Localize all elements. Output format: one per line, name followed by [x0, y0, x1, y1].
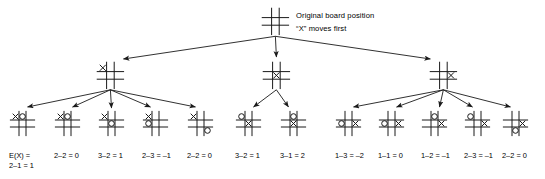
- edge-left-to-leaf-3: [110, 90, 111, 108]
- edge-right-to-leaf-8: [354, 90, 444, 107]
- leaf-1-eval-value: 2–1 = 1: [9, 161, 34, 171]
- edge-right-to-leaf-12: [443, 90, 510, 107]
- edge-left-to-leaf-5: [110, 90, 195, 107]
- edge-left-to-leaf-1: [28, 90, 111, 107]
- edge-right-to-leaf-9: [397, 90, 444, 107]
- edge-center-to-leaf-6: [254, 90, 277, 107]
- leaf-4-eval-value: 2–3 = –1: [142, 151, 171, 160]
- leaf-10-eval-value: 1–2 = –1: [421, 151, 450, 160]
- leaf-9-eval-value: 1–1 = 0: [378, 151, 403, 160]
- edge-root-to-center: [275, 36, 276, 57]
- edge-root-to-left: [123, 36, 275, 59]
- leaf-12-eval-value: 2–2 = 0: [502, 151, 527, 160]
- game-tree-diagram: Original board position “X” moves first …: [0, 0, 545, 179]
- root-annotation-line2: “X” moves first: [296, 24, 346, 34]
- edge-left-to-leaf-2: [73, 90, 111, 107]
- leaf-5-eval-value: 2–2 = 0: [187, 151, 212, 160]
- root-annotation-line1: Original board position: [296, 11, 374, 21]
- leaf-6-eval-value: 3–2 = 1: [235, 151, 260, 160]
- edge-right-to-leaf-10: [440, 90, 444, 107]
- edge-right-to-leaf-11: [443, 90, 472, 107]
- edge-left-to-leaf-4: [110, 90, 150, 107]
- leaf-1-eval-prefix: E(X) =: [9, 151, 30, 161]
- edge-center-to-leaf-7: [276, 90, 288, 107]
- leaf-3-eval-value: 3–2 = 1: [98, 151, 123, 160]
- leaf-2-eval-value: 2–2 = 0: [54, 151, 79, 160]
- edge-root-to-right: [275, 36, 430, 59]
- leaf-8-eval-value: 1–3 = –2: [335, 151, 364, 160]
- leaf-11-eval-value: 2–3 = –1: [464, 151, 493, 160]
- leaf-7-eval-value: 3–1 = 2: [280, 151, 305, 160]
